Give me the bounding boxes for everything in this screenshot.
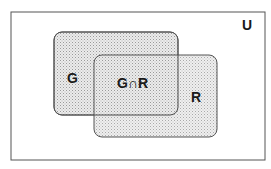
venn-diagram: U G G∩R R <box>0 0 271 169</box>
set-r-label: R <box>191 89 201 105</box>
universe-label: U <box>242 17 252 33</box>
intersection-label: G∩R <box>117 75 148 91</box>
set-g-label: G <box>67 70 78 86</box>
